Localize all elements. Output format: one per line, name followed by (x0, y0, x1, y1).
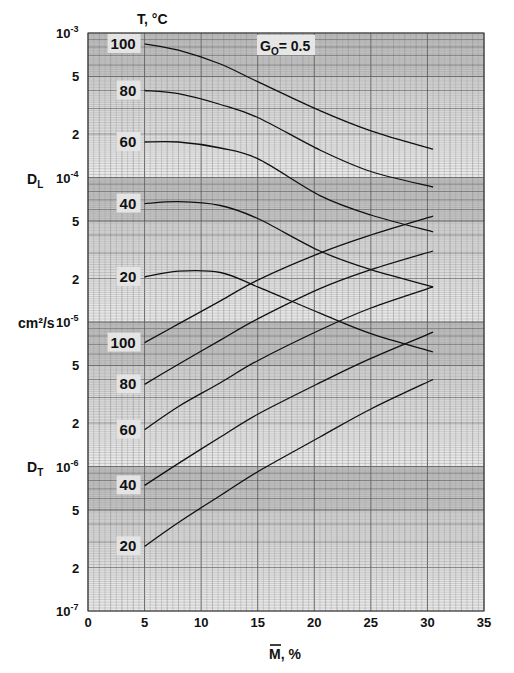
curve-label-dl-40: 40 (117, 194, 141, 213)
x-axis-label: M, % (269, 645, 301, 662)
curve-label-dl-60: 60 (117, 132, 141, 151)
y-tick-label: 10-3 (56, 24, 78, 41)
curve-label-dl-100: 100 (108, 34, 141, 53)
svg-text:40: 40 (120, 195, 137, 212)
curve-label-dl-80: 80 (117, 81, 141, 100)
annotation-g0: GO= 0.5 (257, 35, 315, 57)
y-axis-ticks: 10-35210-45210-55210-65210-7 (56, 24, 79, 619)
svg-text:20: 20 (120, 268, 137, 285)
y-tick-label: 2 (72, 127, 79, 142)
curve-label-dt-20: 20 (117, 536, 141, 555)
x-tick-label: 20 (307, 615, 321, 630)
legend-title: T, °C (137, 11, 168, 27)
curve-label-dt-100: 100 (108, 333, 141, 352)
svg-text:60: 60 (120, 421, 137, 438)
svg-text:60: 60 (120, 133, 137, 150)
y-tick-label: 2 (72, 416, 79, 431)
svg-text:80: 80 (120, 375, 137, 392)
y-tick-label: 5 (72, 358, 79, 373)
y-tick-label: 10-4 (56, 169, 78, 186)
y-tick-label: 10-6 (56, 458, 78, 475)
x-axis-ticks: 05101520253035 (84, 615, 491, 630)
x-tick-label: 25 (364, 615, 378, 630)
svg-text:M, %: M, % (269, 646, 301, 662)
svg-text:80: 80 (120, 82, 137, 99)
y-tick-label: 2 (72, 561, 79, 576)
y-tick-label: 10-5 (56, 313, 78, 330)
x-tick-label: 35 (477, 615, 491, 630)
x-tick-label: 10 (194, 615, 208, 630)
svg-text:20: 20 (120, 537, 137, 554)
x-tick-label: 5 (141, 615, 148, 630)
x-tick-label: 0 (84, 615, 91, 630)
curve-label-dt-60: 60 (117, 420, 141, 439)
chart: 1008060402010080604020 T, °C GO= 0.5 10-… (0, 0, 514, 673)
y-tick-label: 5 (72, 214, 79, 229)
x-tick-label: 30 (420, 615, 434, 630)
curve-label-dt-40: 40 (117, 475, 141, 494)
curve-label-dl-20: 20 (117, 267, 141, 286)
svg-text:40: 40 (120, 476, 137, 493)
svg-text:100: 100 (111, 334, 136, 351)
svg-text:100: 100 (111, 35, 136, 52)
y-tick-label: 5 (72, 69, 79, 84)
y-label-dt: DT (27, 459, 43, 478)
y-tick-label: 2 (72, 272, 79, 287)
curve-label-dt-80: 80 (117, 374, 141, 393)
x-tick-label: 15 (250, 615, 264, 630)
y-label-dl: DL (27, 171, 43, 190)
y-tick-label: 5 (72, 503, 79, 518)
y-label-units: cm²/s (18, 315, 55, 331)
y-tick-label: 10-7 (56, 602, 78, 619)
